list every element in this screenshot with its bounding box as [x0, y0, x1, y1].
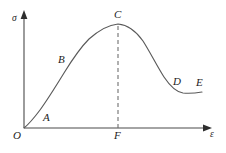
diagram-canvas — [0, 0, 226, 153]
point-label-a: A — [43, 112, 50, 123]
point-label-c: C — [114, 9, 121, 20]
y-axis-label: σ — [12, 14, 17, 24]
point-label-d: D — [173, 76, 181, 87]
point-label-f: F — [114, 130, 121, 141]
x-axis-label: ε — [210, 130, 214, 140]
point-label-e: E — [196, 77, 203, 88]
origin-label: O — [13, 130, 21, 141]
point-label-b: B — [58, 54, 65, 65]
arrow-up-icon — [21, 10, 28, 19]
stress-strain-diagram: σ ε O A B C D E F — [0, 0, 226, 153]
